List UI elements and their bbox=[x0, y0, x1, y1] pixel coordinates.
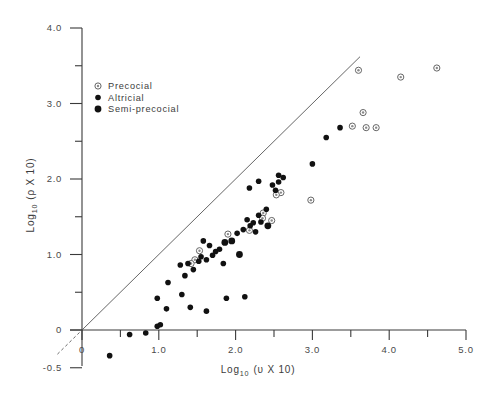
data-point bbox=[250, 220, 256, 226]
data-point bbox=[154, 295, 160, 301]
data-point bbox=[308, 197, 314, 203]
data-point bbox=[182, 273, 188, 279]
data-point bbox=[360, 109, 366, 115]
data-point bbox=[234, 231, 240, 237]
y-axis-title-rest: (ρ X 10) bbox=[25, 158, 36, 200]
data-point bbox=[373, 125, 379, 131]
y-tick-group bbox=[70, 28, 82, 368]
svg-text:Log10(υ X 10): Log10(υ X 10) bbox=[221, 364, 296, 378]
y-axis-title-base: Log bbox=[25, 213, 36, 232]
data-point bbox=[224, 295, 230, 301]
data-point bbox=[225, 231, 231, 237]
legend-item-precocial: Precocial bbox=[95, 81, 153, 91]
legend-marker-filled-circle bbox=[95, 95, 101, 101]
x-axis-title-sub: 10 bbox=[240, 369, 250, 378]
x-tick-label: 0 bbox=[79, 344, 85, 355]
legend-marker-filled-circle-large bbox=[95, 106, 102, 113]
y-tick-label: -0.5 bbox=[43, 362, 62, 373]
data-point bbox=[221, 261, 227, 267]
figure-container: -0.501.02.03.04.0 01.02.03.04.05.0 Preco… bbox=[0, 0, 494, 398]
x-tick-label: 4.0 bbox=[382, 344, 397, 355]
data-point bbox=[269, 217, 275, 223]
x-tick-label: 3.0 bbox=[305, 344, 320, 355]
data-point bbox=[398, 74, 404, 80]
x-tick-label: 2.0 bbox=[228, 344, 243, 355]
data-point bbox=[434, 65, 440, 71]
legend-label: Precocial bbox=[108, 81, 153, 91]
data-point bbox=[107, 353, 113, 359]
data-point bbox=[187, 305, 193, 311]
data-point bbox=[264, 206, 270, 212]
series-semi-precocial bbox=[221, 222, 271, 257]
x-axis-title-rest: (υ X 10) bbox=[253, 364, 295, 375]
data-point bbox=[253, 229, 259, 235]
data-point bbox=[244, 217, 250, 223]
svg-text:Log10(ρ X 10): Log10(ρ X 10) bbox=[25, 158, 39, 233]
data-point bbox=[349, 123, 355, 129]
data-point bbox=[191, 267, 197, 273]
data-point bbox=[158, 322, 164, 328]
y-tick-label: 1.0 bbox=[47, 249, 62, 260]
data-point bbox=[337, 125, 343, 131]
data-point bbox=[276, 179, 282, 185]
data-point bbox=[201, 238, 207, 244]
legend: PrecocialAltricialSemi-precocial bbox=[95, 81, 180, 114]
data-point bbox=[273, 188, 279, 194]
data-point bbox=[204, 257, 210, 263]
data-point bbox=[179, 292, 185, 298]
data-point bbox=[198, 254, 204, 260]
x-axis-title: Log10(υ X 10) bbox=[221, 364, 296, 378]
data-point bbox=[258, 219, 264, 225]
y-tick-label: 0 bbox=[56, 324, 62, 335]
data-point bbox=[256, 178, 262, 184]
data-point bbox=[270, 182, 276, 188]
y-axis-title-sub: 10 bbox=[30, 204, 39, 214]
y-tick-label: 3.0 bbox=[47, 98, 62, 109]
data-point bbox=[355, 67, 361, 73]
legend-item-altricial: Altricial bbox=[95, 93, 144, 103]
data-point bbox=[236, 251, 243, 258]
y-axis-title: Log10(ρ X 10) bbox=[25, 158, 39, 233]
data-point bbox=[310, 161, 316, 167]
axes-group bbox=[70, 28, 466, 366]
x-tick-group bbox=[82, 330, 466, 340]
data-point bbox=[185, 261, 191, 267]
x-tick-label: 1.0 bbox=[151, 344, 166, 355]
data-point bbox=[127, 332, 133, 338]
data-point bbox=[264, 222, 271, 229]
x-axis-title-base: Log bbox=[221, 364, 240, 375]
y-tick-label: 4.0 bbox=[47, 22, 62, 33]
data-point bbox=[207, 243, 213, 249]
data-point bbox=[204, 308, 210, 314]
x-tick-label-group: 01.02.03.04.05.0 bbox=[79, 344, 474, 355]
legend-label: Altricial bbox=[108, 93, 144, 103]
data-point bbox=[165, 280, 171, 286]
data-point bbox=[363, 125, 369, 131]
data-point bbox=[256, 212, 262, 218]
data-point bbox=[323, 135, 329, 141]
legend-marker-open-circle bbox=[95, 83, 101, 89]
data-point bbox=[247, 185, 253, 191]
data-point bbox=[240, 227, 246, 233]
y-tick-label: 2.0 bbox=[47, 173, 62, 184]
legend-item-semi-precocial: Semi-precocial bbox=[95, 104, 180, 114]
y-tick-label-group: -0.501.02.03.04.0 bbox=[43, 22, 62, 373]
data-point bbox=[164, 306, 170, 312]
scatter-plot: -0.501.02.03.04.0 01.02.03.04.05.0 Preco… bbox=[0, 0, 494, 398]
data-point bbox=[217, 246, 223, 252]
x-tick-label: 5.0 bbox=[458, 344, 473, 355]
data-point bbox=[228, 238, 235, 245]
data-point bbox=[280, 175, 286, 181]
data-point bbox=[221, 239, 228, 246]
data-point bbox=[242, 294, 248, 300]
legend-label: Semi-precocial bbox=[108, 104, 179, 114]
data-point bbox=[143, 330, 149, 336]
data-point bbox=[196, 248, 202, 254]
data-point bbox=[178, 262, 184, 268]
